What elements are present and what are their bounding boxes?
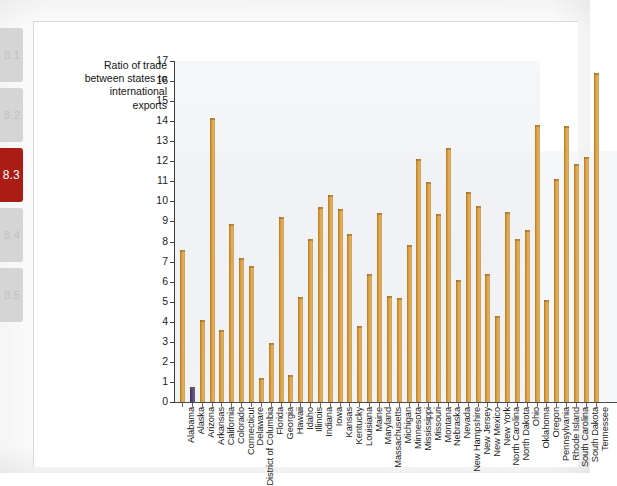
chapter-tab-8-4[interactable]: 8.4: [0, 208, 23, 262]
x-tick-label: Kentucky: [354, 407, 364, 444]
chapter-tab-label: 8.1: [4, 49, 20, 61]
y-tick-label: 7: [162, 255, 168, 268]
x-tick-label: Nevada: [462, 407, 472, 438]
x-tick-label: Michigan: [403, 407, 413, 443]
x-tick-label: District of Columbia: [265, 407, 275, 486]
bar: [338, 209, 343, 402]
x-tick-label: Missouri: [433, 407, 443, 441]
x-tick-label: Florida: [275, 407, 285, 435]
y-tick-label: 11: [157, 174, 168, 187]
x-tick-mark: [556, 403, 557, 407]
x-tick-label: Louisiana: [364, 407, 374, 446]
y-tick-label: 5: [162, 295, 168, 308]
x-tick-label: New Mexico: [492, 407, 502, 457]
y-tick-label: 6: [162, 275, 168, 288]
x-tick-label: New Hampshire: [472, 407, 482, 472]
y-tick-label: 2: [162, 355, 168, 368]
bar: [180, 250, 185, 402]
x-tick-label: Indiana: [324, 407, 334, 437]
bar: [407, 245, 412, 402]
x-tick-mark: [478, 403, 479, 407]
bar: [495, 316, 500, 402]
y-tick-label: 14: [156, 114, 168, 127]
y-tick-mark: [170, 101, 175, 102]
x-tick-label: Iowa: [334, 407, 344, 426]
bar: [328, 195, 333, 402]
x-tick-label: Massachusetts: [393, 407, 403, 468]
x-tick-label: Montana: [443, 407, 453, 442]
y-tick-label: 9: [162, 214, 168, 227]
x-tick-label: Ohio: [531, 407, 541, 426]
x-tick-mark: [399, 403, 400, 407]
y-tick-mark: [170, 201, 175, 202]
bar: [564, 126, 569, 402]
bar: [377, 213, 382, 402]
bar: [259, 378, 264, 402]
x-tick-mark: [468, 403, 469, 407]
bar: [594, 73, 599, 402]
bar: [515, 239, 520, 402]
chapter-tab-8-3[interactable]: 8.3: [0, 148, 23, 202]
x-tick-mark: [290, 403, 291, 407]
chapter-tab-label: 8.5: [4, 289, 20, 301]
y-tick-mark: [170, 362, 175, 363]
x-tick-mark: [438, 403, 439, 407]
x-tick-label: Arizona: [206, 407, 216, 438]
y-tick-mark: [170, 302, 175, 303]
chapter-tab-label: 8.3: [3, 168, 20, 182]
bar: [456, 280, 461, 402]
x-tick-label: Colorado: [236, 407, 246, 444]
x-tick-mark: [497, 403, 498, 407]
x-tick-mark: [409, 403, 410, 407]
x-tick-label: California: [226, 407, 236, 445]
x-tick-mark: [340, 403, 341, 407]
bar: [554, 179, 559, 402]
x-tick-mark: [271, 403, 272, 407]
y-tick-mark: [170, 242, 175, 243]
bar: [574, 164, 579, 402]
bar: [446, 148, 451, 402]
y-axis-line: [174, 61, 175, 403]
x-tick-mark: [212, 403, 213, 407]
x-tick-label: Arkansas: [216, 407, 226, 445]
x-tick-label: North Dakota: [521, 407, 531, 461]
y-tick-mark: [170, 282, 175, 283]
x-tick-label: Connecticut: [246, 407, 256, 455]
y-tick-label: 3: [162, 335, 168, 348]
x-tick-mark: [389, 403, 390, 407]
x-tick-label: Pennsylvania: [561, 407, 571, 461]
x-tick-mark: [527, 403, 528, 407]
x-tick-label: Mississippi: [423, 407, 433, 451]
x-tick-mark: [349, 403, 350, 407]
bar: [416, 159, 421, 402]
x-tick-mark: [231, 403, 232, 407]
x-tick-mark: [251, 403, 252, 407]
y-tick-mark: [170, 61, 175, 62]
x-tick-mark: [310, 403, 311, 407]
bar: [210, 118, 215, 402]
x-tick-label: South Carolina: [580, 407, 590, 467]
chapter-tab-label: 8.4: [4, 229, 20, 241]
chapter-tab-label: 8.2: [4, 109, 20, 121]
y-tick-mark: [170, 262, 175, 263]
x-tick-mark: [241, 403, 242, 407]
bar: [347, 234, 352, 402]
y-tick-label: 13: [156, 134, 168, 147]
x-tick-label: Maryland: [383, 407, 393, 444]
x-tick-mark: [428, 403, 429, 407]
chapter-tab-8-2[interactable]: 8.2: [0, 88, 23, 142]
bar: [308, 239, 313, 402]
bar: [200, 320, 205, 402]
chapter-tab-8-1[interactable]: 8.1: [0, 28, 23, 82]
bar-chart-plot: 01234567891011121314151617 AlabamaAlaska…: [174, 61, 617, 403]
x-tick-mark: [379, 403, 380, 407]
bar: [239, 258, 244, 402]
chapter-tab-8-5[interactable]: 8.5: [0, 268, 23, 322]
x-tick-mark: [261, 403, 262, 407]
x-tick-mark: [537, 403, 538, 407]
x-tick-label: North Carolina: [511, 407, 521, 466]
x-tick-mark: [320, 403, 321, 407]
bar: [279, 217, 284, 402]
y-axis-title: Ratio of trade between states to interna…: [75, 59, 167, 112]
